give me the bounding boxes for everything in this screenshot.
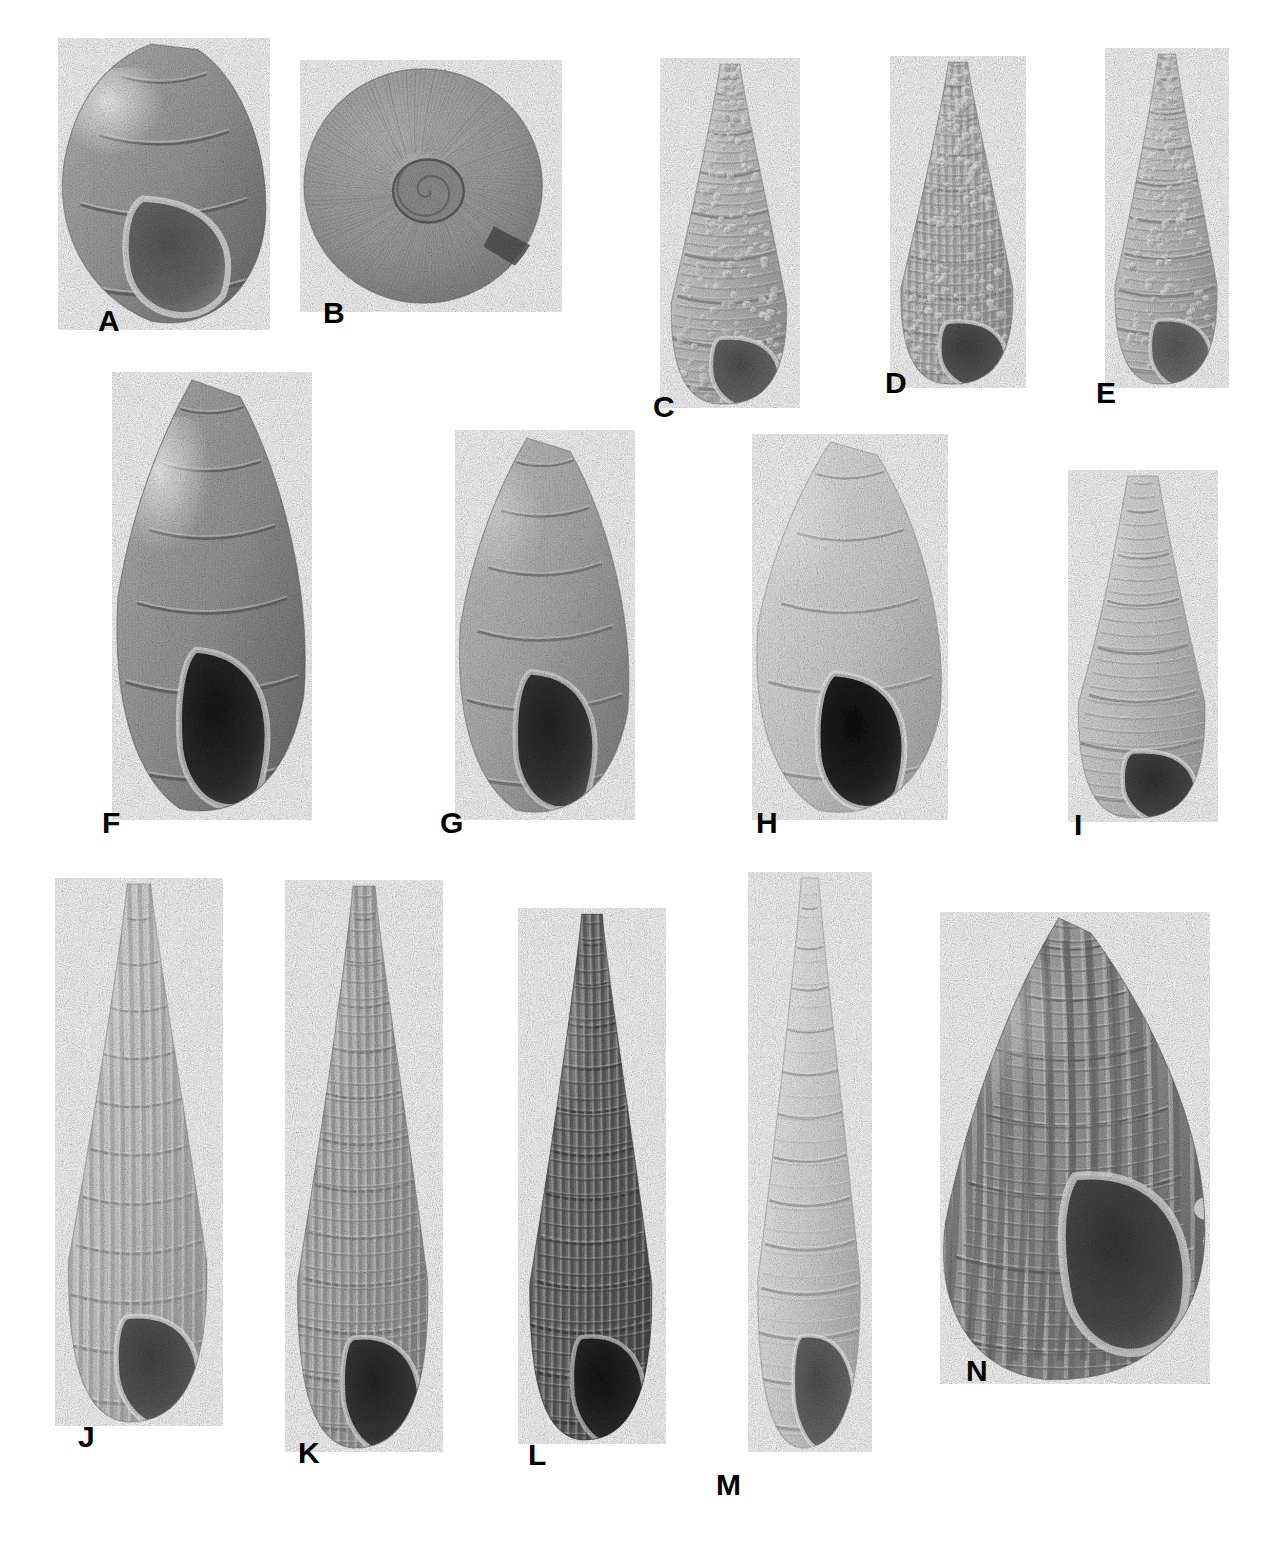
- specimen-c: [660, 58, 800, 408]
- specimen-d: [890, 56, 1026, 388]
- specimen-g: [455, 430, 635, 820]
- figure-label-g: G: [440, 808, 463, 838]
- specimen-i: [1068, 470, 1218, 822]
- figure-label-b: B: [323, 298, 345, 328]
- figure-label-k: K: [298, 1438, 320, 1468]
- figure-label-l: L: [528, 1440, 546, 1470]
- figure-label-c: C: [653, 392, 675, 422]
- specimen-plate: ABCDEFGHIJKLMN: [0, 0, 1281, 1556]
- figure-label-d: D: [885, 368, 907, 398]
- specimen-m: [748, 872, 872, 1452]
- specimen-h: [752, 434, 948, 820]
- specimen-k: [285, 880, 443, 1452]
- specimen-b: [300, 60, 562, 312]
- specimen-j: [55, 878, 223, 1426]
- specimen-a: [58, 38, 270, 330]
- figure-label-i: I: [1074, 810, 1082, 840]
- figure-label-f: F: [102, 808, 120, 838]
- figure-label-n: N: [966, 1356, 988, 1386]
- figure-label-m: M: [716, 1470, 741, 1500]
- figure-label-j: J: [78, 1422, 95, 1452]
- figure-label-a: A: [98, 306, 120, 336]
- figure-label-h: H: [756, 808, 778, 838]
- specimen-f: [112, 372, 312, 820]
- specimen-l: [518, 908, 666, 1444]
- specimen-e: [1105, 48, 1229, 388]
- specimen-n: [940, 912, 1210, 1384]
- figure-label-e: E: [1096, 378, 1116, 408]
